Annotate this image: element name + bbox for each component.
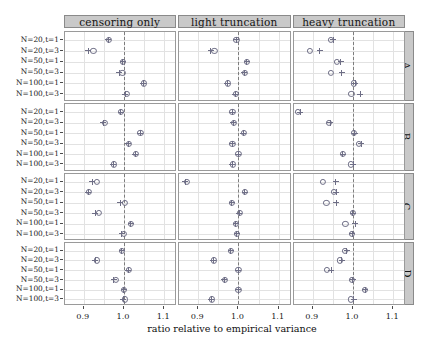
gridline-vertical	[393, 174, 394, 240]
gridline-vertical-minor	[144, 174, 145, 240]
gridline-vertical-minor	[144, 32, 145, 100]
data-point-plus	[233, 221, 239, 227]
gridline-vertical	[198, 174, 199, 240]
gridline-horizontal	[65, 40, 176, 41]
data-point-plus	[228, 248, 234, 254]
reference-line	[353, 32, 354, 100]
data-point-plus	[340, 151, 346, 157]
x-axis-tick-label: 1.1	[149, 311, 177, 321]
gridline-horizontal	[179, 213, 290, 214]
gridline-horizontal	[65, 213, 176, 214]
gridline-horizontal	[179, 62, 290, 63]
data-point-plus	[362, 287, 368, 293]
gridline-vertical-minor	[259, 174, 260, 240]
gridline-horizontal	[294, 290, 405, 291]
gridline-vertical-minor	[218, 243, 219, 304]
gridline-vertical	[279, 32, 280, 100]
data-point-circle	[320, 179, 326, 185]
gridline-vertical	[84, 174, 85, 240]
y-axis-label: N=20,t=1	[2, 35, 59, 44]
data-point-plus	[232, 91, 238, 97]
data-point-plus	[116, 70, 122, 76]
gridline-vertical-minor	[218, 174, 219, 240]
gridline-horizontal	[294, 123, 405, 124]
gridline-vertical-minor	[373, 104, 374, 170]
data-point-plus	[92, 210, 98, 216]
data-point-plus	[333, 179, 339, 185]
x-axis-tick	[83, 306, 84, 309]
reference-line	[238, 104, 239, 170]
y-axis-label: N=50,t=1	[2, 56, 59, 65]
gridline-vertical-minor	[259, 104, 260, 170]
data-point-plus	[117, 200, 123, 206]
panel-D-2	[293, 242, 406, 305]
gridline-horizontal	[65, 192, 176, 193]
data-point-plus	[224, 80, 230, 86]
x-axis-tick-label: 1.0	[109, 311, 137, 321]
gridline-vertical	[279, 174, 280, 240]
data-point-plus	[89, 179, 95, 185]
y-axis-label: N=50,t=1	[2, 197, 59, 206]
y-axis-label: N=100,t=1	[2, 149, 59, 158]
data-point-plus	[229, 141, 235, 147]
y-axis-label: N=20,t=3	[2, 255, 59, 264]
data-point-plus	[140, 80, 146, 86]
data-point-plus	[208, 296, 214, 302]
x-axis-tick-label: 0.9	[183, 311, 211, 321]
x-axis-tick-label: 0.9	[298, 311, 326, 321]
x-axis-tick	[237, 306, 238, 309]
gridline-horizontal	[179, 182, 290, 183]
data-point-plus	[208, 48, 214, 54]
y-axis-label: N=20,t=3	[2, 187, 59, 196]
data-point-plus	[357, 91, 363, 97]
data-point-plus	[132, 151, 138, 157]
gridline-horizontal	[179, 299, 290, 300]
data-point-plus	[242, 189, 248, 195]
y-axis-label: N=100,t=3	[2, 89, 59, 98]
y-axis-label: N=50,t=3	[2, 275, 59, 284]
data-point-plus	[358, 141, 364, 147]
gridline-horizontal	[179, 260, 290, 261]
gridline-vertical-minor	[373, 174, 374, 240]
gridline-vertical	[198, 32, 199, 100]
y-axis-label: N=100,t=3	[2, 294, 59, 303]
data-point-plus	[330, 37, 336, 43]
gridline-horizontal	[294, 144, 405, 145]
data-point-plus	[240, 130, 246, 136]
gridline-vertical-minor	[218, 32, 219, 100]
gridline-horizontal	[294, 260, 405, 261]
gridline-horizontal	[294, 62, 405, 63]
gridline-vertical	[313, 32, 314, 100]
gridline-horizontal	[294, 40, 405, 41]
gridline-vertical	[164, 243, 165, 304]
x-axis-tick	[123, 306, 124, 309]
data-point-plus	[235, 151, 241, 157]
reference-line	[124, 174, 125, 240]
panel-A-2	[293, 31, 406, 101]
data-point-plus	[317, 48, 323, 54]
data-point-plus	[121, 287, 127, 293]
y-axis-label: N=100,t=1	[2, 78, 59, 87]
gridline-horizontal	[294, 224, 405, 225]
x-axis-tick-label: 1.0	[338, 311, 366, 321]
data-point-plus	[236, 210, 242, 216]
data-point-plus	[244, 59, 250, 65]
gridline-horizontal	[294, 112, 405, 113]
data-point-plus	[350, 277, 356, 283]
data-point-plus	[339, 257, 345, 263]
gridline-vertical	[198, 104, 199, 170]
y-axis-label: N=20,t=3	[2, 117, 59, 126]
gridline-horizontal	[179, 83, 290, 84]
data-point-plus	[122, 91, 128, 97]
gridline-horizontal	[179, 280, 290, 281]
gridline-horizontal	[65, 133, 176, 134]
reference-line	[353, 243, 354, 304]
gridline-vertical	[393, 243, 394, 304]
data-point-plus	[235, 267, 241, 273]
gridline-vertical	[313, 174, 314, 240]
x-axis-tick	[312, 306, 313, 309]
gridline-horizontal	[179, 251, 290, 252]
gridline-horizontal	[179, 73, 290, 74]
gridline-vertical-minor	[259, 32, 260, 100]
gridline-horizontal	[65, 154, 176, 155]
